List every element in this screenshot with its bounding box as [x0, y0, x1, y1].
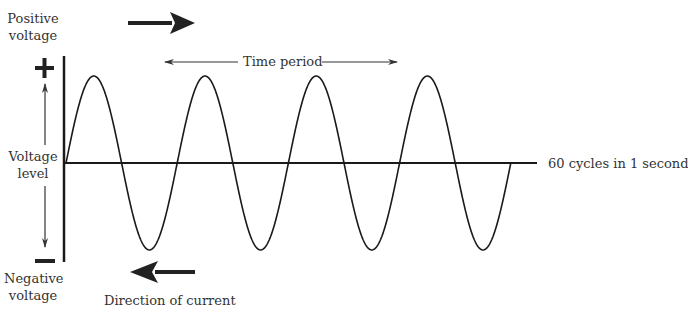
- positive-voltage-line1: Positive: [6, 10, 60, 27]
- positive-direction-arrow-icon: [128, 12, 195, 34]
- minus-sign-icon: [35, 259, 55, 263]
- plus-sign-icon: [35, 58, 54, 78]
- voltage-level-line1: Voltage: [8, 148, 58, 165]
- positive-voltage-label: Positive voltage: [6, 10, 60, 44]
- negative-voltage-line2: voltage: [4, 287, 62, 304]
- time-period-label: Time period: [243, 53, 323, 70]
- positive-voltage-line2: voltage: [6, 27, 60, 44]
- voltage-level-label: Voltage level: [8, 148, 58, 182]
- voltage-level-line2: level: [8, 165, 58, 182]
- negative-voltage-line1: Negative: [4, 270, 62, 287]
- frequency-label: 60 cycles in 1 second: [548, 155, 688, 172]
- direction-of-current-label: Direction of current: [104, 292, 236, 309]
- negative-voltage-label: Negative voltage: [4, 270, 62, 304]
- negative-direction-arrow-icon: [130, 261, 195, 283]
